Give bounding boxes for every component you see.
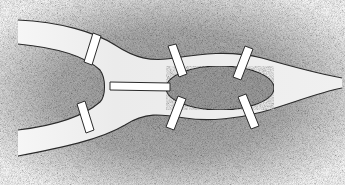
seven-bridges-diagram: Seven Bridges of Königsberg <box>0 0 345 185</box>
diagram-canvas <box>0 0 345 185</box>
bridge-3[interactable] <box>110 82 170 91</box>
